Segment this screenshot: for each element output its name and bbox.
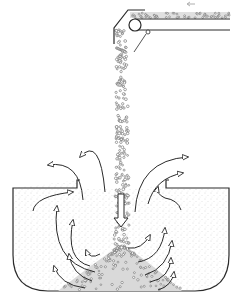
particle: [176, 286, 178, 288]
particle: [126, 121, 128, 123]
particle: [125, 98, 128, 101]
particle: [115, 166, 117, 168]
particle: [120, 240, 122, 242]
particle: [194, 17, 196, 19]
particle: [126, 126, 129, 129]
particle: [123, 139, 125, 141]
particle: [213, 15, 215, 17]
particle: [119, 249, 121, 251]
particle: [176, 17, 178, 19]
particle: [121, 281, 123, 283]
snub-pulley: [146, 30, 150, 34]
particle: [117, 106, 119, 108]
particle: [121, 256, 123, 258]
particle: [136, 263, 138, 265]
particle: [84, 279, 86, 281]
particle: [124, 153, 127, 156]
particle: [127, 178, 129, 180]
particle: [121, 79, 123, 81]
particle: [155, 272, 157, 274]
head-pulley: [129, 19, 141, 31]
particle: [110, 253, 112, 255]
particle: [116, 68, 118, 70]
particle: [114, 265, 116, 267]
particle: [202, 17, 204, 19]
particle: [105, 260, 107, 262]
particle: [140, 274, 142, 276]
particle: [127, 194, 130, 197]
particle: [98, 273, 100, 275]
particle: [125, 215, 128, 218]
scraper: [134, 34, 146, 52]
particle: [115, 96, 117, 98]
particle: [125, 64, 127, 66]
particle: [133, 272, 135, 274]
dust-dispersion-diagram: [0, 0, 243, 306]
particle: [140, 286, 142, 288]
particle: [95, 266, 97, 268]
particle: [141, 12, 143, 14]
particle: [199, 12, 201, 14]
particle: [118, 116, 120, 118]
particle: [122, 97, 124, 99]
particle: [71, 286, 73, 288]
conveyor: [114, 2, 230, 52]
direction-arrow-icon: [187, 2, 195, 6]
particle: [111, 283, 113, 285]
particle: [90, 281, 92, 283]
particle: [123, 148, 125, 150]
particle: [115, 195, 117, 197]
particle: [132, 14, 134, 16]
particle: [123, 156, 125, 158]
particle: [124, 58, 126, 60]
particle: [118, 132, 121, 135]
particle: [120, 138, 122, 140]
particle: [119, 149, 121, 151]
particle: [119, 35, 121, 37]
particle: [160, 283, 162, 285]
particle: [133, 276, 135, 278]
particle: [123, 238, 125, 240]
particle: [119, 126, 121, 128]
particle: [162, 279, 164, 281]
particle: [127, 242, 129, 244]
particle: [173, 284, 175, 286]
particle: [119, 163, 121, 165]
particle: [143, 285, 145, 287]
particle: [103, 258, 105, 260]
particle: [123, 241, 125, 243]
particle: [116, 243, 118, 245]
particle: [123, 82, 125, 84]
particle: [113, 238, 115, 240]
particle: [119, 120, 122, 123]
particle: [119, 44, 121, 46]
particle: [100, 284, 102, 286]
particle: [124, 134, 126, 136]
particle: [100, 265, 102, 267]
particle: [118, 97, 120, 99]
particle: [138, 13, 140, 15]
particle: [145, 267, 147, 269]
particle: [114, 251, 116, 253]
particle: [104, 266, 106, 268]
particle: [122, 268, 124, 270]
particle: [151, 275, 153, 277]
particle: [113, 234, 116, 237]
particle: [118, 237, 121, 240]
particle: [121, 152, 123, 154]
particle: [116, 158, 119, 161]
particle: [115, 181, 118, 184]
particle: [119, 286, 121, 288]
particle: [122, 86, 124, 88]
particle: [121, 32, 123, 34]
particle: [148, 266, 150, 268]
particle: [126, 132, 129, 135]
particle: [118, 66, 120, 68]
particle: [119, 60, 121, 62]
particle: [124, 178, 127, 181]
particle: [214, 12, 216, 14]
particle: [126, 105, 129, 108]
particle: [118, 156, 121, 159]
particle: [119, 145, 121, 147]
particle: [123, 252, 125, 254]
